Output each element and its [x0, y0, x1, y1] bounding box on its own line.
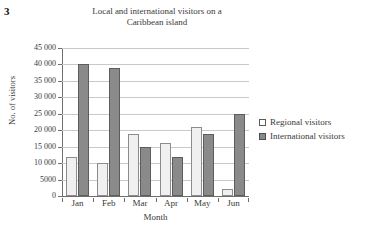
y-axis-tick-label: 0: [10, 192, 56, 200]
y-axis-tick-mark: [58, 196, 62, 197]
x-axis-tick-mark: [62, 198, 63, 202]
x-axis-tick-label: Apr: [156, 198, 187, 209]
y-axis-tick-mark: [58, 97, 62, 98]
gridline: [62, 114, 249, 115]
bar-mar-international: [140, 147, 151, 196]
y-axis-tick-label: 30 000: [10, 93, 56, 101]
y-axis-tick-mark: [58, 114, 62, 115]
x-axis-tick-labels: JanFebMarAprMayJun: [62, 198, 249, 212]
legend-item-regional[interactable]: Regional visitors: [259, 115, 363, 129]
y-axis-tick-mark: [58, 48, 62, 49]
y-axis-tick-mark: [58, 64, 62, 65]
gridline: [62, 130, 249, 131]
bar-feb-regional: [97, 163, 108, 196]
x-axis-tick-label: Jan: [62, 198, 93, 209]
chart-title: Local and international visitors on a Ca…: [62, 6, 252, 28]
gridline: [62, 147, 249, 148]
legend-label: Regional visitors: [270, 117, 331, 127]
x-axis-tick-label: Feb: [93, 198, 124, 209]
y-axis-tick-label: 35 000: [10, 77, 56, 85]
gridline: [62, 180, 249, 181]
bar-apr-international: [172, 157, 183, 196]
y-axis-tick-mark: [58, 180, 62, 181]
gridline: [62, 64, 249, 65]
x-axis-tick-mark: [218, 198, 219, 202]
legend-item-international[interactable]: International visitors: [259, 129, 363, 143]
x-axis-title: Month: [62, 212, 249, 222]
bar-feb-international: [109, 68, 120, 196]
x-axis-tick-mark: [124, 198, 125, 202]
y-axis-tick-mark: [58, 147, 62, 148]
gridline: [62, 81, 249, 82]
y-axis-tick-label: 40 000: [10, 60, 56, 68]
x-axis-tick-mark: [187, 198, 188, 202]
y-axis-tick-mark: [58, 81, 62, 82]
gridline: [62, 48, 249, 49]
gridline: [62, 97, 249, 98]
chart-title-line-2: Caribbean island: [62, 17, 252, 28]
x-axis-tick-mark: [156, 198, 157, 202]
y-axis-tick-labels: 45 00040 00035 00030 00025 00020 00015 0…: [8, 0, 56, 228]
legend-swatch-international-icon: [259, 133, 266, 140]
legend-swatch-regional-icon: [259, 119, 266, 126]
bar-jun-regional: [222, 189, 233, 196]
y-axis-tick-label: 25 000: [10, 110, 56, 118]
bar-may-international: [203, 134, 214, 196]
y-axis-tick-mark: [58, 163, 62, 164]
chart-legend: Regional visitorsInternational visitors: [259, 115, 363, 143]
axis-baseline: [62, 196, 249, 197]
plot-area: [62, 48, 249, 196]
legend-label: International visitors: [270, 131, 345, 141]
bar-jun-international: [234, 114, 245, 196]
x-axis-tick-mark: [93, 198, 94, 202]
bar-jan-regional: [66, 157, 77, 196]
y-axis-tick-label: 45 000: [10, 44, 56, 52]
bar-jan-international: [78, 64, 89, 196]
y-axis-tick-label: 10 000: [10, 159, 56, 167]
y-axis-tick-label: 15 000: [10, 143, 56, 151]
bar-may-regional: [191, 127, 202, 196]
x-axis-tick-label: May: [187, 198, 218, 209]
x-axis-tick-label: Mar: [124, 198, 155, 209]
y-axis-tick-label: 5000: [10, 176, 56, 184]
bar-mar-regional: [128, 134, 139, 196]
chart-figure: 3 Local and international visitors on a …: [0, 0, 365, 228]
y-axis-tick-label: 20 000: [10, 126, 56, 134]
gridlines: [62, 48, 249, 196]
chart-title-line-1: Local and international visitors on a: [62, 6, 252, 17]
y-axis-tick-mark: [58, 130, 62, 131]
gridline: [62, 163, 249, 164]
bar-apr-regional: [160, 143, 171, 196]
x-axis-tick-label: Jun: [218, 198, 249, 209]
x-axis-tick-mark: [248, 198, 249, 202]
